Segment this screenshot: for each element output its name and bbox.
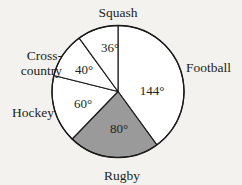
- slice-label-cross-country-line1: Cross-: [27, 48, 63, 63]
- angle-label-hockey: 60°: [74, 96, 92, 111]
- slice-label-hockey: Hockey: [12, 105, 54, 120]
- slice-label-football: Football: [186, 60, 231, 75]
- pie-chart-canvas: Squash Football Cross- country Hockey Ru…: [0, 0, 242, 185]
- angle-label-football: 144°: [140, 83, 165, 98]
- slice-label-cross-country-line2: country: [21, 63, 62, 78]
- slice-label-rugby: Rugby: [104, 168, 140, 183]
- angle-label-rugby: 80°: [110, 121, 128, 136]
- slice-label-squash: Squash: [98, 5, 137, 20]
- angle-label-cross-country: 40°: [75, 62, 93, 77]
- angle-label-squash: 36°: [101, 40, 119, 55]
- pie-chart-figure: Squash Football Cross- country Hockey Ru…: [0, 0, 242, 185]
